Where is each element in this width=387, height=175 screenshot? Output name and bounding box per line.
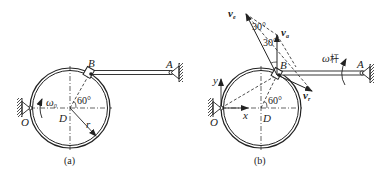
support-O — [22, 102, 30, 115]
label-omega0: ω0 — [46, 96, 57, 109]
label-A: A — [356, 58, 364, 70]
label-angle-60: 60° — [268, 95, 282, 106]
rod-BA — [279, 71, 364, 75]
diagram-canvas: ω0 60° D O B A r (a) — [0, 0, 387, 175]
label-y-axis: y — [212, 74, 218, 86]
wall-O — [17, 98, 22, 117]
label-angle-30-top: 30° — [252, 21, 266, 32]
radius-arrow — [70, 108, 96, 136]
label-B: B — [88, 57, 95, 69]
label-A: A — [165, 58, 173, 70]
wall-A — [370, 64, 374, 83]
caption-a: (a) — [64, 155, 75, 167]
label-ve: ve — [228, 7, 236, 20]
rotation-arrow-omega0 — [40, 99, 42, 118]
support-O — [213, 102, 221, 115]
label-va: va — [281, 26, 289, 39]
label-D: D — [58, 112, 67, 124]
wall-O — [208, 98, 213, 117]
figure-a: ω0 60° D O B A r (a) — [17, 57, 183, 167]
rod-BA — [90, 71, 172, 75]
label-r: r — [86, 118, 91, 130]
label-D: D — [262, 112, 271, 124]
label-omega-rod: ω杆 — [322, 52, 339, 64]
pin-B — [89, 72, 93, 76]
angle-arc-60 — [73, 102, 76, 108]
caption-b: (b) — [254, 155, 266, 167]
label-B: B — [280, 59, 287, 71]
label-x-axis: x — [242, 109, 248, 121]
figure-b: ve va vr 30° 30° 60° B A O D x y ω杆 (b) — [208, 7, 374, 167]
label-O: O — [21, 116, 29, 128]
label-angle-30-mid: 30° — [263, 37, 277, 48]
label-vr: vr — [303, 89, 311, 102]
wall-A — [179, 63, 183, 82]
angle-arc-30-mid — [271, 62, 277, 63]
angle-arc-60 — [264, 102, 267, 108]
label-O: O — [210, 116, 218, 128]
label-angle-60: 60° — [77, 95, 91, 106]
